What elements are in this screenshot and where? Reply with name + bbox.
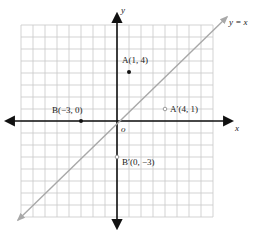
point-b-prime [115,155,119,159]
point-a [127,70,131,74]
origin-label: o [121,124,126,134]
reflection-line-y-equals-x [18,17,227,220]
point-a-label: A(1, 4) [122,55,148,65]
point-a-prime-label: A′(4, 1) [170,104,198,114]
point-a-prime [163,107,167,111]
x-axis-label: x [234,123,239,133]
y-axis-label: y [120,5,125,15]
point-b-prime-label: B′(0, −3) [122,157,155,167]
coordinate-plane: x y o y = x A(1, 4) B(−3, 0) A′(4, 1) B′… [0,0,260,242]
point-b [79,119,83,123]
point-b-label: B(−3, 0) [52,105,83,115]
reflection-line-label: y = x [228,17,248,27]
